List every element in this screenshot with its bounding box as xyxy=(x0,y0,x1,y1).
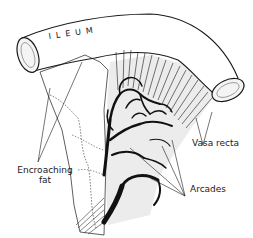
encroaching-fat-label-line2: fat xyxy=(10,175,80,185)
encroaching-fat-label-line1: Encroaching xyxy=(10,165,80,175)
ileum-illustration xyxy=(0,0,253,238)
arcades-label: Arcades xyxy=(190,184,226,194)
encroaching-fat-label: Encroaching fat xyxy=(10,165,80,185)
anatomy-figure: ILEUM Encroaching fat Vasa recta Arcades xyxy=(0,0,253,238)
vasa-recta-label: Vasa recta xyxy=(192,138,239,148)
mesentery-outline xyxy=(40,55,108,235)
fat-boundary xyxy=(50,95,96,228)
